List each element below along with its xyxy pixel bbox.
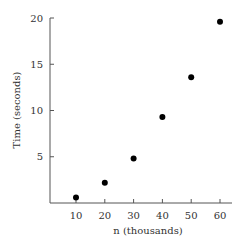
data-point — [188, 74, 194, 80]
y-tick-label: 15 — [30, 59, 43, 70]
x-tick-label: 40 — [156, 210, 169, 221]
y-tick-label: 5 — [37, 151, 43, 162]
x-axis-label: n (thousands) — [113, 225, 183, 236]
y-tick-label: 20 — [30, 13, 43, 24]
y-tick-label: 10 — [30, 105, 43, 116]
data-point — [217, 19, 223, 25]
x-tick-label: 50 — [185, 210, 198, 221]
scatter-chart: 5101520102030405060n (thousands)Time (se… — [0, 0, 242, 244]
x-tick-label: 20 — [98, 210, 111, 221]
data-point — [131, 156, 137, 162]
x-tick-label: 10 — [70, 210, 83, 221]
x-tick-label: 60 — [214, 210, 227, 221]
y-axis-label: Time (seconds) — [11, 71, 22, 148]
data-point — [159, 114, 165, 120]
data-point — [102, 180, 108, 186]
data-point — [73, 194, 79, 200]
chart-canvas: 5101520102030405060n (thousands)Time (se… — [0, 0, 242, 244]
x-tick-label: 30 — [127, 210, 140, 221]
